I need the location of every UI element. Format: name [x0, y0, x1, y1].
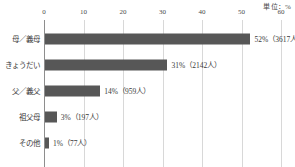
bar-row: きょうだい31%（2142人） — [0, 52, 295, 78]
value-label: 3%（197人） — [61, 113, 103, 122]
bar-row: 父／義父14%（959人） — [0, 78, 295, 104]
value-label: 52%（3617人） — [254, 35, 295, 44]
bar-rows: 母／義母52%（3617人）きょうだい31%（2142人）父／義父14%（959… — [0, 20, 295, 167]
bar — [45, 138, 49, 149]
category-label: 父／義父 — [0, 87, 40, 96]
value-label: 1%（77人） — [53, 139, 92, 148]
x-tick-label: 50 — [238, 8, 245, 16]
x-tick-label: 10 — [80, 8, 87, 16]
x-tick-label: 0 — [42, 8, 46, 16]
bar-row: その他1%（77人） — [0, 130, 295, 156]
x-tick-label: 40 — [199, 8, 206, 16]
value-label: 14%（959人） — [104, 87, 150, 96]
bar — [45, 60, 167, 71]
category-label: その他 — [0, 139, 40, 148]
bar — [45, 112, 57, 123]
bar — [45, 86, 100, 97]
x-tick-label: 30 — [159, 8, 166, 16]
bar — [45, 34, 250, 45]
x-tick-label: 20 — [120, 8, 127, 16]
bar-chart: 単位：% 0102030405060 母／義母52%（3617人）きょうだい31… — [0, 0, 295, 167]
x-tick-label: 60 — [278, 8, 285, 16]
bar-row: 祖父母3%（197人） — [0, 104, 295, 130]
category-label: きょうだい — [0, 61, 40, 70]
bar-row: 母／義母52%（3617人） — [0, 26, 295, 52]
value-label: 31%（2142人） — [171, 61, 221, 70]
category-label: 祖父母 — [0, 113, 40, 122]
category-label: 母／義母 — [0, 35, 40, 44]
